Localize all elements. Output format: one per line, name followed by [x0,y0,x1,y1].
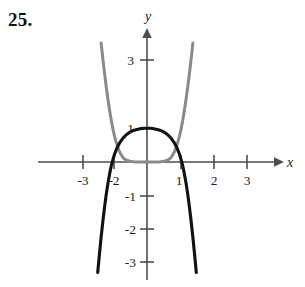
x-tick-label-2: 2 [211,173,218,188]
x-tick-label--3: -3 [77,173,88,188]
x-tick-label--2: -2 [108,173,119,188]
x-tick-labels: -3 -2 1 2 3 [77,173,250,188]
x-axis-label: x [286,155,294,170]
x-tick-label-1: 1 [176,173,183,188]
y-axis [140,28,154,280]
y-tick-label-3: 3 [127,53,134,68]
graph-svg: -3 -2 1 2 3 3 1 -1 -2 -3 x y [0,0,305,287]
x-tick-label-3: 3 [244,173,251,188]
y-axis-arrow-icon [142,28,152,38]
figure-container: 25. -3 -2 1 [0,0,305,287]
y-tick-label--3: -3 [125,255,136,270]
y-tick-label--2: -2 [125,222,136,237]
y-tick-label--1: -1 [125,189,136,204]
x-axis-arrow-icon [274,157,284,167]
y-axis-label: y [143,9,152,24]
y-tick-label-1: 1 [127,121,134,136]
